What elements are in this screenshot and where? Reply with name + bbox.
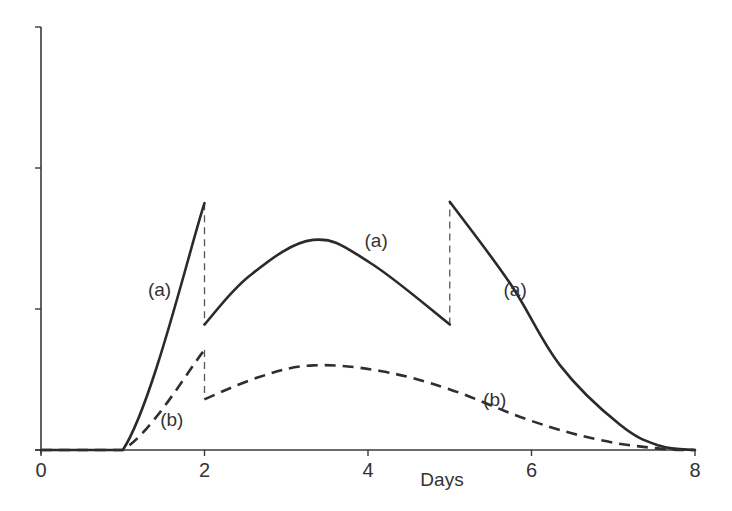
axes: 02468Days [35,27,701,490]
x-axis-label: Days [420,469,463,490]
series-line-b [41,350,695,450]
x-tick-label: 4 [362,459,373,481]
series-annotation: (b) [483,389,506,410]
series-annotation: (a) [148,279,171,300]
annotations: (a)(a)(a)(b)(b) [148,230,527,430]
x-tick-label: 6 [526,459,537,481]
series-annotation: (a) [504,279,527,300]
x-tick-label: 2 [199,459,210,481]
x-tick-label: 0 [35,459,46,481]
series-annotation: (a) [365,230,388,251]
line-chart: 02468Days (a)(a)(a)(b)(b) [0,0,732,511]
x-tick-label: 8 [689,459,700,481]
series-annotation: (b) [160,409,183,430]
drop-lines [205,202,450,399]
